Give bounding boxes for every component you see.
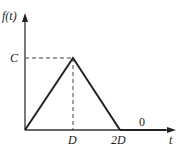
y-axis-label: f(t) (2, 9, 17, 23)
peak-label: C (10, 51, 19, 65)
triangle-pulse-diagram: f(t) C D 2D 0 t (0, 0, 181, 148)
tick-label-d: D (67, 133, 77, 147)
tick-label-2d: 2D (111, 133, 126, 147)
x-axis-label: t (169, 133, 173, 147)
zero-region-label: 0 (139, 115, 145, 129)
y-axis-arrow-icon (22, 13, 28, 22)
